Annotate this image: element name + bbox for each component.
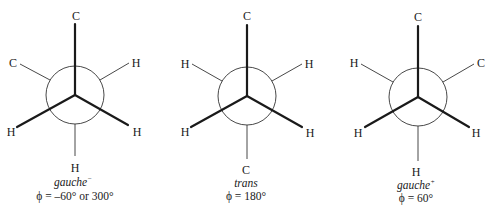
atom-label-back-bottom: C <box>242 163 250 177</box>
conformer-name-text: gauche <box>397 179 430 192</box>
atom-label-back-upper-left: H <box>350 56 359 70</box>
conformer-name-text: gauche <box>54 176 87 189</box>
conformer-name: gauche+ <box>397 178 435 192</box>
back-bond-upper-left <box>192 64 222 81</box>
atom-label-back-bottom: H <box>412 165 421 179</box>
atom-label-front-top: C <box>243 9 251 23</box>
atom-label-front-lower-right: H <box>472 126 481 140</box>
atom-label-front-lower-left: H <box>354 126 363 140</box>
back-bond-upper-right <box>272 64 302 81</box>
dihedral-angle: ϕ = –60° or 300° <box>36 190 114 203</box>
front-bond-lower-left <box>191 96 247 127</box>
dihedral-angle: ϕ = 60° <box>399 192 434 205</box>
newman-trans: C H H H H C trans ϕ = 180° <box>181 9 315 203</box>
front-bond-lower-right <box>418 97 469 127</box>
conformer-name: gauche− <box>54 175 92 189</box>
newman-gauche-plus: C H C H H H gauche+ ϕ = 60° <box>350 10 485 205</box>
conformer-name-text: trans <box>234 177 258 189</box>
atom-label-back-upper-right: C <box>477 56 485 70</box>
atom-label-front-lower-right: H <box>133 125 142 139</box>
atom-label-front-lower-right: H <box>306 126 315 140</box>
atom-label-back-upper-right: H <box>132 56 141 70</box>
dihedral-angle: ϕ = 180° <box>226 190 267 203</box>
atom-label-back-upper-right: H <box>305 57 314 71</box>
atom-label-front-lower-left: H <box>181 125 190 139</box>
newman-gauche-minus: C C H H H H gauche− ϕ = –60° or 300° <box>7 9 142 203</box>
newman-projections-figure: C C H H H H gauche− ϕ = –60° or 300° C H… <box>0 0 492 212</box>
back-bond-upper-right <box>100 63 129 80</box>
back-bond-upper-left <box>20 64 50 80</box>
back-bond-upper-right <box>443 64 474 82</box>
atom-label-front-top: C <box>414 10 422 24</box>
conformer-name-superscript: − <box>87 175 92 183</box>
back-bond-upper-left <box>361 64 393 82</box>
atom-label-back-bottom: H <box>71 161 80 175</box>
atom-label-back-upper-left: C <box>9 56 17 70</box>
atom-label-front-lower-left: H <box>7 125 16 139</box>
conformer-name-superscript: + <box>430 178 435 186</box>
conformer-name: trans <box>234 177 258 189</box>
atom-label-back-upper-left: H <box>181 57 190 71</box>
atom-label-front-top: C <box>72 9 80 23</box>
front-bond-lower-right <box>75 95 128 125</box>
front-bond-lower-right <box>247 96 302 127</box>
front-bond-lower-left <box>365 97 418 127</box>
